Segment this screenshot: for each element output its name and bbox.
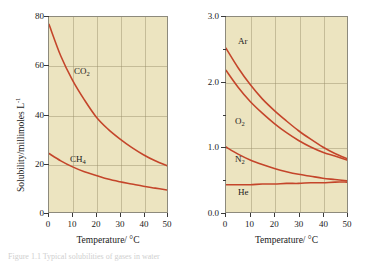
xtick-mark	[72, 213, 73, 217]
ytick-mark-minor	[223, 49, 226, 50]
series-label-text: CO	[74, 66, 87, 76]
x-axis-title-right: Temperature/ °C	[225, 235, 348, 245]
series-label-ch4: CH4	[70, 155, 86, 164]
ytick-mark-minor	[223, 115, 226, 116]
ytick-label: 0	[20, 209, 44, 218]
figure-caption: Figure 1.1 Typical solubilities of gases…	[8, 252, 358, 262]
x-axis-title-left: Temperature/ °C	[48, 235, 168, 245]
y-axis-title-text: Solubility/millimoles L	[16, 103, 26, 192]
ytick-mark-minor	[223, 180, 226, 181]
xtick-mark	[347, 213, 348, 217]
series-label-subscript: 4	[83, 158, 86, 165]
curve-he	[226, 182, 347, 185]
xtick-mark	[274, 213, 275, 217]
ytick-mark	[221, 147, 226, 148]
xtick-mark	[323, 213, 324, 217]
curve-co2	[49, 24, 167, 165]
xtick-label: 20	[264, 220, 284, 229]
ytick-label: 80	[20, 12, 44, 21]
curve-ar	[226, 48, 347, 158]
plot-area-left	[48, 16, 168, 213]
ytick-label: 2.0	[191, 78, 219, 87]
chart-panel-right: 3.0 2.0 1.0 0.0 0 10 20 30 40 50 Tempera…	[183, 0, 365, 265]
series-label-n2: N2	[235, 155, 245, 164]
series-label-text: O	[235, 116, 242, 126]
xtick-mark	[144, 213, 145, 217]
ytick-mark	[44, 16, 49, 17]
curve-svg-right	[226, 17, 347, 212]
xtick-mark	[96, 213, 97, 217]
series-label-subscript: 2	[242, 120, 245, 127]
xtick-mark	[48, 213, 49, 217]
xtick-label: 40	[134, 220, 154, 229]
ytick-label: 60	[20, 61, 44, 70]
xtick-label: 0	[215, 220, 235, 229]
xtick-label: 50	[157, 220, 177, 229]
ytick-label: 1.0	[191, 143, 219, 152]
xtick-label: 20	[86, 220, 106, 229]
series-label-text: CH	[70, 154, 83, 164]
series-label-subscript: 2	[242, 158, 245, 165]
curves-left	[49, 17, 167, 212]
xtick-label: 10	[240, 220, 260, 229]
ytick-mark	[221, 82, 226, 83]
series-label-subscript: 2	[87, 70, 90, 77]
xtick-label: 30	[110, 220, 130, 229]
curves-right	[226, 17, 347, 212]
series-label-ar: Ar	[238, 37, 248, 46]
series-label-co2: CO2	[74, 67, 90, 76]
chart-panel-left: 80 60 40 20 0 0 10 20 30 40 50 Temperatu…	[0, 0, 183, 265]
series-label-he: He	[238, 188, 249, 197]
xtick-mark	[167, 213, 168, 217]
ytick-mark	[44, 65, 49, 66]
ytick-mark	[44, 115, 49, 116]
xtick-label: 0	[38, 220, 58, 229]
ytick-mark	[44, 164, 49, 165]
series-label-text: N	[235, 154, 242, 164]
curve-svg-left	[49, 17, 167, 212]
curve-o2	[226, 70, 347, 160]
xtick-mark	[250, 213, 251, 217]
series-label-text: He	[238, 187, 249, 197]
xtick-mark	[299, 213, 300, 217]
y-axis-title-exponent: -1	[14, 98, 21, 103]
curve-ch4	[49, 154, 167, 191]
series-label-o2: O2	[235, 117, 245, 126]
xtick-mark	[225, 213, 226, 217]
xtick-label: 40	[313, 220, 333, 229]
xtick-label: 10	[62, 220, 82, 229]
xtick-mark	[120, 213, 121, 217]
series-label-text: Ar	[238, 36, 248, 46]
ytick-label: 0.0	[191, 209, 219, 218]
figure-container: 80 60 40 20 0 0 10 20 30 40 50 Temperatu…	[0, 0, 365, 265]
ytick-label: 3.0	[191, 12, 219, 21]
xtick-label: 30	[289, 220, 309, 229]
xtick-label: 50	[337, 220, 357, 229]
ytick-mark	[221, 16, 226, 17]
y-axis-title-left: Solubility/millimoles L-1	[14, 98, 26, 192]
